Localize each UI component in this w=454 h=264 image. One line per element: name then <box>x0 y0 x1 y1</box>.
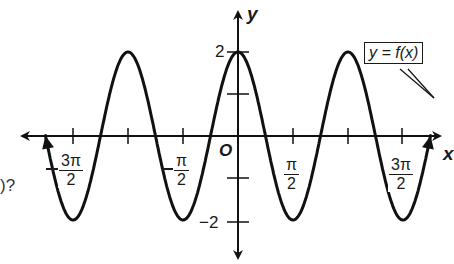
y-tick-label-2: 2 <box>215 43 224 60</box>
neg-sign-pi2 <box>162 168 173 170</box>
y-tick-label-neg2: −2 <box>199 214 218 231</box>
curve-arrowhead <box>42 136 54 150</box>
cropped-text-fragment: )? <box>0 177 15 194</box>
x-tick-label-neg-pi-2: π 2 <box>173 153 190 188</box>
x-tick-label-3pi-2: 3π 2 <box>388 157 414 192</box>
x-tick-label-neg-3pi-2: 3π 2 <box>58 153 84 188</box>
x-axis-label: x <box>443 144 454 163</box>
origin-label: O <box>219 142 232 159</box>
curve-arrowhead <box>422 136 434 150</box>
y-axis-label: y <box>247 4 258 23</box>
x-tick-label-pi-2: π 2 <box>283 157 300 192</box>
callout-pointer <box>400 69 434 98</box>
neg-sign-3pi2 <box>46 168 58 170</box>
function-label-callout: y = f(x) <box>364 42 423 64</box>
